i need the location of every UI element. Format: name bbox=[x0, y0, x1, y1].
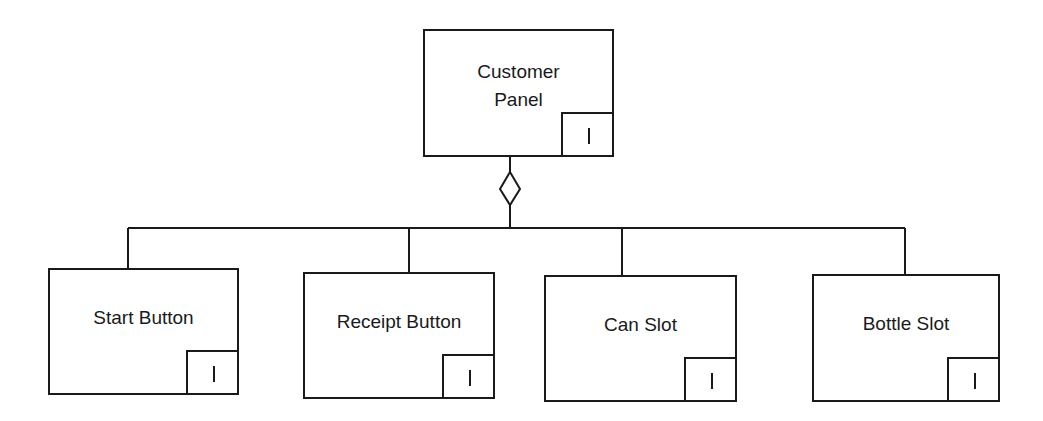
marker-bar-icon bbox=[213, 366, 215, 382]
receipt-button-box: Receipt Button bbox=[303, 272, 495, 399]
start-button-box: Start Button bbox=[48, 268, 239, 395]
customer-panel-label-line1: Customer bbox=[425, 59, 612, 85]
receipt-button-label: Receipt Button bbox=[305, 309, 493, 335]
marker-bar-icon bbox=[974, 373, 976, 389]
can-slot-label: Can Slot bbox=[546, 312, 735, 338]
aggregation-diamond-icon bbox=[500, 172, 520, 205]
bottle-slot-label: Bottle Slot bbox=[814, 311, 998, 337]
can-slot-box: Can Slot bbox=[544, 275, 737, 402]
interface-marker bbox=[561, 112, 614, 157]
interface-marker bbox=[684, 357, 737, 402]
marker-bar-icon bbox=[711, 373, 713, 389]
interface-marker bbox=[186, 350, 239, 395]
interface-marker bbox=[442, 354, 495, 399]
bottle-slot-box: Bottle Slot bbox=[812, 274, 1000, 402]
customer-panel-label-line2: Panel bbox=[425, 87, 612, 113]
diagram-canvas: Customer Panel Start Button Receipt Butt… bbox=[0, 0, 1043, 421]
marker-bar-icon bbox=[588, 128, 590, 144]
customer-panel-box: Customer Panel bbox=[423, 29, 614, 157]
marker-bar-icon bbox=[469, 370, 471, 386]
start-button-label: Start Button bbox=[50, 305, 237, 331]
interface-marker bbox=[947, 357, 1000, 402]
